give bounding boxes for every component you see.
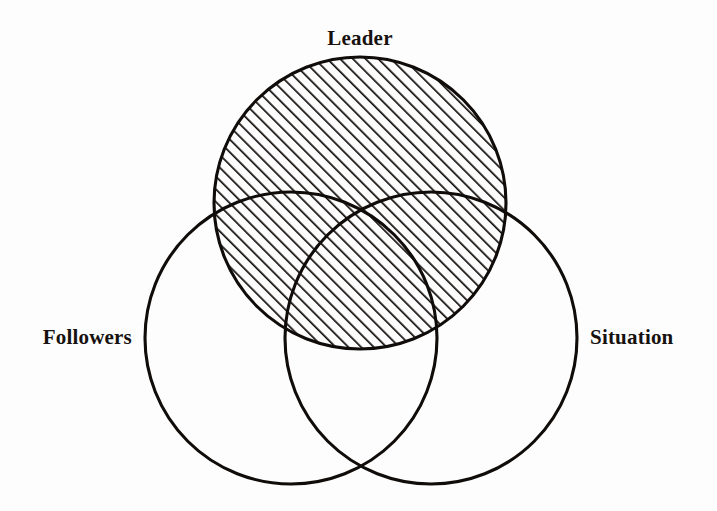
followers-label: Followers <box>43 325 132 349</box>
leader-label: Leader <box>327 26 392 50</box>
leader-circle-hatch-fill <box>210 53 510 353</box>
situation-label: Situation <box>590 325 674 349</box>
venn-diagram-canvas: Leader Followers Situation <box>0 0 717 511</box>
venn-diagram-figure: Leader Followers Situation <box>0 0 717 511</box>
